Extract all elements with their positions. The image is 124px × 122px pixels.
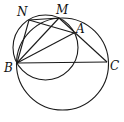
geometry-diagram: N M A B C (0, 0, 124, 122)
label-B: B (3, 61, 13, 75)
label-A: A (75, 22, 85, 36)
large-circle (17, 18, 109, 110)
label-M: M (55, 3, 69, 17)
label-C: C (110, 59, 119, 73)
label-N: N (16, 5, 28, 19)
segment-BC (17, 62, 107, 63)
